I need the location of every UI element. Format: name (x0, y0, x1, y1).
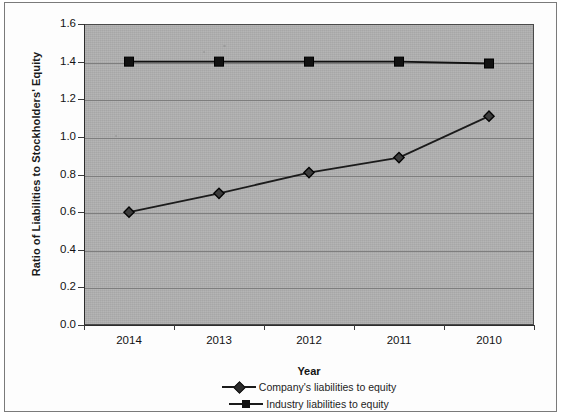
data-point-square (395, 57, 404, 66)
y-tick-label: 1.2 (40, 92, 76, 104)
x-axis-line (84, 325, 535, 326)
x-tick-mark (174, 325, 175, 330)
x-tick-label: 2010 (444, 334, 534, 346)
y-tick-label: 0.6 (40, 205, 76, 217)
data-point-diamond (214, 188, 224, 198)
data-series-layer (84, 24, 534, 325)
x-tick-mark (534, 325, 535, 330)
figure-frame: Ratio of Liabilities to Stockholders' Eq… (4, 2, 557, 412)
data-point-square (215, 57, 224, 66)
x-tick-label: 2013 (174, 334, 264, 346)
x-tick-label: 2012 (264, 334, 354, 346)
legend-item-industry: Industry liabilities to equity (229, 397, 389, 411)
data-point-diamond (394, 152, 404, 162)
series-line-company (129, 116, 489, 212)
y-tick-label: 1.4 (40, 55, 76, 67)
x-tick-mark (354, 325, 355, 330)
legend-item-company: Company's liabilities to equity (222, 380, 396, 394)
data-point-diamond (124, 207, 134, 217)
data-point-diamond (484, 111, 494, 121)
y-tick-label: 0.2 (40, 280, 76, 292)
square-marker-icon (229, 398, 263, 410)
data-point-diamond (304, 168, 314, 178)
legend-label-industry: Industry liabilities to equity (266, 398, 389, 410)
x-tick-mark (264, 325, 265, 330)
data-point-square (305, 57, 314, 66)
chart-legend: Company's liabilities to equity Industry… (84, 380, 534, 411)
data-point-square (485, 59, 494, 68)
y-axis-tick-labels: 0.00.20.40.60.81.01.21.41.6 (32, 3, 76, 343)
legend-label-company: Company's liabilities to equity (259, 381, 396, 393)
x-axis-title: Year (84, 365, 534, 377)
y-tick-label: 1.6 (40, 17, 76, 29)
diamond-marker-icon (222, 381, 256, 393)
y-tick-label: 0.0 (40, 318, 76, 330)
x-tick-label: 2014 (84, 334, 174, 346)
x-tick-mark (444, 325, 445, 330)
y-tick-mark (78, 325, 84, 326)
x-tick-mark (84, 325, 85, 330)
y-tick-label: 1.0 (40, 130, 76, 142)
data-point-square (125, 57, 134, 66)
y-tick-label: 0.8 (40, 168, 76, 180)
x-tick-label: 2011 (354, 334, 444, 346)
y-tick-label: 0.4 (40, 243, 76, 255)
